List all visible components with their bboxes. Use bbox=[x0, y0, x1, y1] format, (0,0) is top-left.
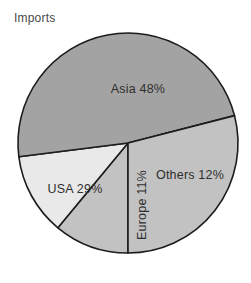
pie-slice-group bbox=[18, 33, 238, 253]
pie-label-others: Others 12% bbox=[156, 168, 224, 182]
pie-label-asia: Asia 48% bbox=[111, 82, 165, 96]
pie-chart-figure: Imports Asia 48%USA 29%Others 12%Europe … bbox=[0, 0, 251, 283]
pie-label-europe: Europe 11% bbox=[135, 170, 149, 240]
pie-chart-svg: Asia 48%USA 29%Others 12%Europe 11% bbox=[0, 0, 251, 283]
pie-label-usa: USA 29% bbox=[48, 182, 103, 196]
